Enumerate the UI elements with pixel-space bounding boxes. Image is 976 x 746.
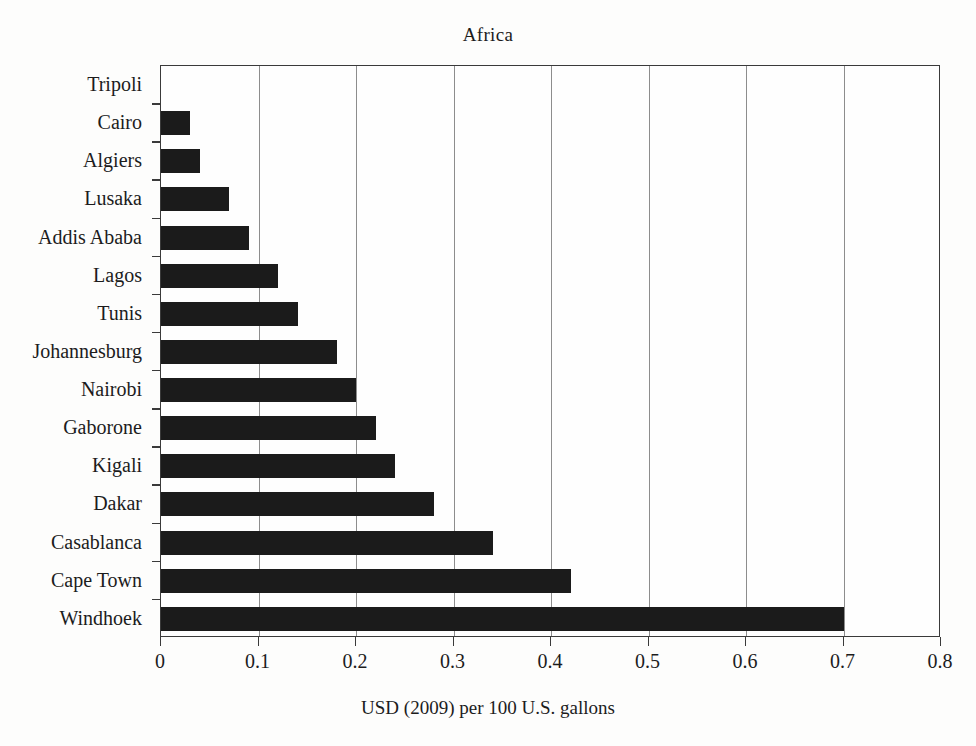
bar-row [161,600,939,638]
x-axis-tick [160,637,161,646]
bar-casablanca [161,531,493,555]
y-tick-label: Cape Town [0,561,152,599]
y-axis-tick [152,561,160,562]
bar-row [161,257,939,295]
bar-row [161,142,939,180]
x-axis-tick [453,637,454,646]
plot-area [160,65,940,637]
y-axis-tick [152,294,160,295]
x-tick-label: 0.4 [515,650,585,673]
bar-kigali [161,454,395,478]
bar-row [161,180,939,218]
y-tick-label: Algiers [0,141,152,179]
y-tick-label: Windhoek [0,599,152,637]
x-tick-label: 0.8 [905,650,975,673]
bar-row [161,66,939,104]
x-axis-tick [258,637,259,646]
bar-row [161,333,939,371]
x-axis-tick [550,637,551,646]
x-tick-label: 0.6 [710,650,780,673]
bar-lagos [161,264,278,288]
y-tick-label: Kigali [0,446,152,484]
chart-title: Africa [0,24,976,46]
x-axis-tick [940,637,941,646]
y-tick-label: Cairo [0,103,152,141]
bar-row [161,409,939,447]
x-axis-title: USD (2009) per 100 U.S. gallons [0,697,976,719]
chart-figure: Africa TripoliCairoAlgiersLusakaAddis Ab… [0,0,976,746]
x-axis-tick [355,637,356,646]
y-tick-label: Casablanca [0,523,152,561]
bar-row [161,485,939,523]
y-axis: TripoliCairoAlgiersLusakaAddis AbabaLago… [0,65,152,637]
y-axis-tick [152,141,160,142]
y-tick-label: Johannesburg [0,332,152,370]
x-tick-label: 0.5 [613,650,683,673]
y-axis-tick [152,179,160,180]
y-axis-tick [152,103,160,104]
y-axis-tick [152,599,160,600]
y-axis-tick [152,370,160,371]
y-axis-tick [152,446,160,447]
bar-nairobi [161,378,356,402]
y-tick-label: Addis Ababa [0,218,152,256]
y-axis-tick [152,332,160,333]
x-axis-tick [745,637,746,646]
bar-addis-ababa [161,226,249,250]
bar-algiers [161,149,200,173]
bar-tunis [161,302,298,326]
y-axis-tick [152,218,160,219]
y-axis-tick [152,408,160,409]
y-tick-label: Tripoli [0,65,152,103]
bar-johannesburg [161,340,337,364]
bar-row [161,447,939,485]
bar-row [161,524,939,562]
x-tick-label: 0.7 [808,650,878,673]
bar-row [161,562,939,600]
bar-row [161,371,939,409]
bar-dakar [161,492,434,516]
y-tick-label: Lusaka [0,179,152,217]
bar-row [161,295,939,333]
bar-row [161,219,939,257]
bar-windhoek [161,607,844,631]
y-tick-label: Nairobi [0,370,152,408]
y-axis-tick [152,484,160,485]
bar-gaborone [161,416,376,440]
y-tick-label: Dakar [0,484,152,522]
bar-cairo [161,111,190,135]
y-axis-tick [152,256,160,257]
y-tick-label: Gaborone [0,408,152,446]
y-tick-label: Lagos [0,256,152,294]
x-tick-label: 0 [125,650,195,673]
bar-row [161,104,939,142]
x-axis-tick [843,637,844,646]
y-axis-tick [152,523,160,524]
bar-lusaka [161,187,229,211]
x-tick-label: 0.2 [320,650,390,673]
y-tick-label: Tunis [0,294,152,332]
x-tick-label: 0.1 [223,650,293,673]
x-axis-tick [648,637,649,646]
bar-cape-town [161,569,571,593]
x-tick-label: 0.3 [418,650,488,673]
